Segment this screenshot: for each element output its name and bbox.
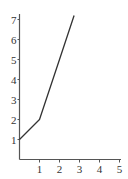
series-line — [20, 16, 75, 140]
x-tick-label: 3 — [77, 163, 83, 175]
y-tick-label: 1 — [11, 134, 17, 146]
data-series — [20, 16, 75, 140]
x-tick-label: 5 — [117, 163, 123, 175]
x-tick-label: 2 — [57, 163, 63, 175]
axes — [20, 14, 122, 160]
y-tick-label: 2 — [11, 114, 17, 126]
y-tick-label: 6 — [11, 34, 17, 46]
y-tick-label: 5 — [11, 54, 17, 66]
x-tick-label: 1 — [37, 163, 43, 175]
line-chart: 12345 1234567 — [0, 0, 128, 179]
x-axis-ticks: 12345 — [37, 160, 123, 175]
y-tick-label: 7 — [11, 14, 17, 26]
y-tick-label: 3 — [11, 94, 17, 106]
x-tick-label: 4 — [97, 163, 103, 175]
y-axis-ticks: 1234567 — [11, 14, 20, 146]
y-tick-label: 4 — [11, 74, 17, 86]
